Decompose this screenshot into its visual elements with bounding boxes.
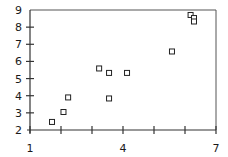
x-tick-label: 7 <box>213 142 220 155</box>
data-point-square <box>66 95 71 100</box>
scatter-chart: 147 23456789 <box>0 0 228 157</box>
data-point-square <box>107 96 112 101</box>
y-axis: 23456789 <box>15 4 34 137</box>
y-tick-label: 9 <box>15 4 22 17</box>
y-tick-label: 4 <box>15 90 22 103</box>
data-point-square <box>169 49 174 54</box>
y-tick-label: 5 <box>15 73 22 86</box>
x-tick-label: 1 <box>27 142 34 155</box>
y-tick-label: 2 <box>15 124 22 137</box>
x-tick-label: 4 <box>120 142 127 155</box>
y-tick-label: 3 <box>15 107 22 120</box>
data-points <box>50 12 197 124</box>
data-point-square <box>97 66 102 71</box>
plot-frame <box>27 10 216 133</box>
y-tick-label: 6 <box>15 55 22 68</box>
y-tick-label: 8 <box>15 21 22 34</box>
data-point-square <box>191 19 196 24</box>
y-tick-label: 7 <box>15 38 22 51</box>
data-point-square <box>125 70 130 75</box>
data-point-square <box>50 119 55 124</box>
data-point-square <box>61 110 66 115</box>
data-point-square <box>107 70 112 75</box>
